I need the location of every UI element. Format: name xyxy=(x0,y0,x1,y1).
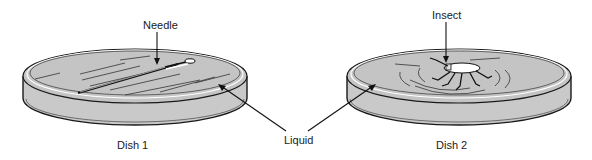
dish-2-label: Dish 2 xyxy=(436,139,467,151)
needle-label: Needle xyxy=(143,19,178,31)
liquid-label: Liquid xyxy=(284,134,313,146)
dish-2 xyxy=(347,22,571,125)
dish-1 xyxy=(23,32,247,125)
insect-label: Insect xyxy=(432,9,461,21)
dish-1-label: Dish 1 xyxy=(117,139,148,151)
